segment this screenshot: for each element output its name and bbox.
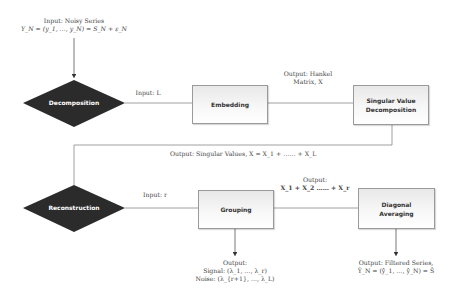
- singular-values-label: Output: Singular Values, X = X_1 + …… + …: [170, 150, 330, 158]
- input-formula: Y_N = (y_1, …, y_N) = S_N + ε_N: [14, 25, 134, 33]
- grouping-output-label: Output: Signal: (λ_1, …, λ_r) Noise: (λ_…: [195, 259, 275, 283]
- filtered-output-line1: Output: Filtered Series,: [350, 259, 442, 267]
- embedding-box: Embedding: [192, 85, 268, 124]
- filtered-output-line2: Ŷ_N = (ŷ_1, …, ŷ_N) = Ŝ: [350, 267, 442, 275]
- grouping-edge-line2: X_1 + X_2 …… + X_r: [280, 184, 350, 192]
- input-r-label: Input: r: [140, 191, 170, 199]
- input-title: Input: Noisy Series: [14, 17, 134, 25]
- hankel-line2: Matrix, X: [278, 78, 338, 86]
- svd-label-line2: Decomposition: [366, 105, 416, 114]
- grouping-output-line1: Output:: [195, 259, 275, 267]
- grouping-edge-line1: Output:: [280, 176, 350, 184]
- grouping-edge-output-label: Output: X_1 + X_2 …… + X_r: [280, 176, 350, 192]
- hankel-output-label: Output: Hankel Matrix, X: [278, 70, 338, 86]
- input-L-label: Input: L: [133, 89, 163, 97]
- grouping-box: Grouping: [198, 190, 274, 229]
- grouping-label: Grouping: [220, 205, 251, 214]
- decomposition-label: Decomposition: [34, 99, 114, 106]
- grouping-output-signal: Signal: (λ_1, …, λ_r): [195, 267, 275, 275]
- hankel-line1: Output: Hankel: [278, 70, 338, 78]
- embedding-label: Embedding: [211, 100, 249, 109]
- da-label-line2: Averaging: [379, 209, 413, 218]
- diagonal-averaging-box: Diagonal Averaging: [358, 188, 435, 229]
- svd-label-line1: Singular Value: [366, 96, 415, 105]
- input-label: Input: Noisy Series Y_N = (y_1, …, y_N) …: [14, 17, 134, 33]
- da-label-line1: Diagonal: [382, 200, 412, 209]
- svd-box: Singular Value Decomposition: [353, 85, 429, 125]
- reconstruction-label: Reconstruction: [34, 204, 114, 211]
- filtered-series-output-label: Output: Filtered Series, Ŷ_N = (ŷ_1, …, …: [350, 259, 442, 275]
- grouping-output-noise: Noise: (λ_{r+1}, …, λ_L): [195, 275, 275, 283]
